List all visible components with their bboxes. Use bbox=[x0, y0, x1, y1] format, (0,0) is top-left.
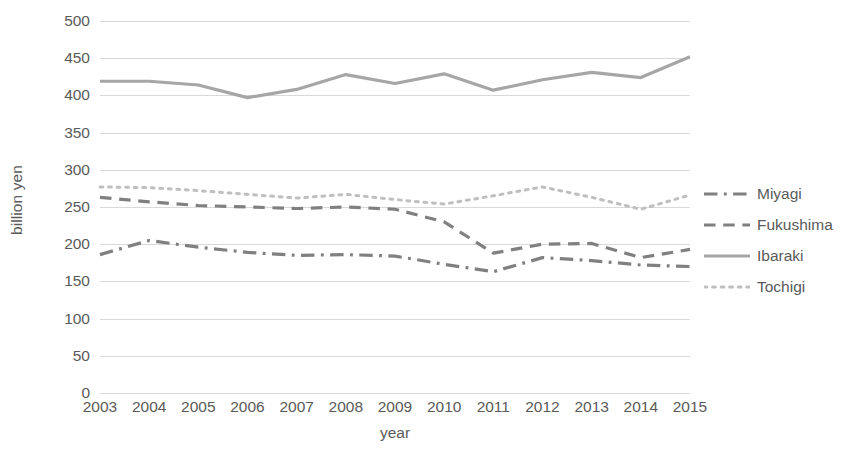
x-axis-tick-label: 2005 bbox=[173, 398, 223, 417]
y-axis-tick-label: 450 bbox=[34, 50, 90, 66]
x-axis-tick-label: 2007 bbox=[272, 398, 322, 417]
legend-label: Ibaraki bbox=[757, 247, 804, 265]
legend-label: Tochigi bbox=[757, 278, 805, 296]
x-axis-tick-label: 2009 bbox=[370, 398, 420, 417]
x-axis-tick-labels: 2003200420052006200720082009201020112012… bbox=[100, 398, 690, 420]
gridline bbox=[100, 393, 690, 394]
y-axis-tick-label: 300 bbox=[34, 162, 90, 178]
legend-swatch-dashdot-icon bbox=[704, 188, 750, 200]
series-line-fukushima bbox=[100, 197, 690, 257]
series-line-ibaraki bbox=[100, 57, 690, 98]
x-axis-tick-label: 2013 bbox=[567, 398, 617, 417]
legend-swatch-dashed-icon bbox=[704, 219, 750, 231]
y-axis-tick-label: 150 bbox=[34, 274, 90, 290]
x-axis-tick-label: 2014 bbox=[616, 398, 666, 417]
series-line-miyagi bbox=[100, 240, 690, 271]
x-axis-title: year bbox=[100, 424, 690, 442]
y-axis-title-label: billion yen bbox=[8, 165, 26, 235]
x-axis-tick-label: 2008 bbox=[321, 398, 371, 417]
legend-label: Miyagi bbox=[757, 185, 802, 203]
x-axis-tick-label: 2012 bbox=[518, 398, 568, 417]
x-axis-title-label: year bbox=[380, 424, 410, 441]
legend-item-ibaraki[interactable]: Ibaraki bbox=[704, 240, 854, 271]
y-axis-tick-label: 250 bbox=[34, 199, 90, 215]
legend-item-fukushima[interactable]: Fukushima bbox=[704, 209, 854, 240]
legend-item-tochigi[interactable]: Tochigi bbox=[704, 271, 854, 302]
legend-swatch-dotted-icon bbox=[704, 281, 750, 293]
y-axis-tick-label: 50 bbox=[34, 348, 90, 364]
legend-swatch-solid-icon bbox=[704, 250, 750, 262]
y-axis-tick-label: 100 bbox=[34, 311, 90, 327]
x-axis-tick-label: 2006 bbox=[223, 398, 273, 417]
legend-item-miyagi[interactable]: Miyagi bbox=[704, 178, 854, 209]
x-axis-tick-label: 2003 bbox=[75, 398, 125, 417]
line-chart: billion yen 0501001502002503003504004505… bbox=[0, 0, 860, 469]
y-axis-tick-label: 400 bbox=[34, 88, 90, 104]
x-axis-tick-label: 2010 bbox=[419, 398, 469, 417]
series-line-tochigi bbox=[100, 187, 690, 209]
y-axis-tick-label: 200 bbox=[34, 236, 90, 252]
x-axis-tick-label: 2015 bbox=[665, 398, 715, 417]
x-axis-tick-label: 2011 bbox=[468, 398, 518, 417]
y-axis-tick-label: 350 bbox=[34, 125, 90, 141]
x-axis-tick-label: 2004 bbox=[124, 398, 174, 417]
chart-legend: MiyagiFukushimaIbarakiTochigi bbox=[704, 178, 854, 302]
legend-label: Fukushima bbox=[757, 216, 833, 234]
y-axis-tick-label: 500 bbox=[34, 13, 90, 29]
plot-area bbox=[100, 21, 690, 393]
series-container bbox=[100, 21, 690, 393]
